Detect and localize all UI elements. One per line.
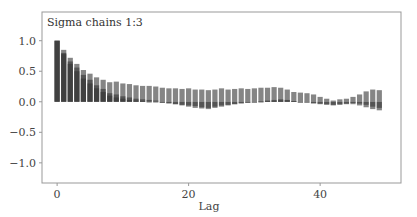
acf-bar xyxy=(252,88,257,101)
acf-bar xyxy=(199,102,204,108)
acf-bar xyxy=(114,98,119,102)
acf-bar xyxy=(304,102,309,103)
acf-bar xyxy=(193,102,198,106)
acf-bar xyxy=(166,102,171,104)
x-tick-label: 40 xyxy=(313,188,327,201)
acf-bar xyxy=(153,87,158,102)
acf-bar xyxy=(318,97,323,102)
acf-bar xyxy=(94,88,99,101)
acf-bar xyxy=(252,102,257,103)
acf-bar xyxy=(87,83,92,101)
acf-bar xyxy=(120,99,125,102)
y-tick-label: 1.0 xyxy=(19,35,37,48)
acf-bar xyxy=(61,54,66,102)
acf-bar xyxy=(133,101,138,102)
acf-bar xyxy=(212,102,217,107)
acf-bar xyxy=(239,102,244,103)
acf-bar xyxy=(370,90,375,102)
acf-bar xyxy=(291,101,296,102)
x-tick-label: 0 xyxy=(54,188,61,201)
acf-bar xyxy=(160,102,165,103)
acf-bar xyxy=(127,100,132,102)
acf-bar xyxy=(311,94,316,101)
acf-bar xyxy=(160,88,165,102)
acf-bar xyxy=(258,102,263,103)
acf-bar xyxy=(147,86,152,102)
acf-bar xyxy=(324,99,329,102)
acf-bar xyxy=(225,90,230,102)
acf-bar xyxy=(344,102,349,104)
acf-bar xyxy=(298,93,303,102)
acf-bar xyxy=(232,89,237,102)
acf-bar xyxy=(337,102,342,104)
acf-bar xyxy=(225,102,230,105)
acf-bar xyxy=(245,102,250,103)
y-tick-label: −1.0 xyxy=(9,157,36,170)
acf-bar xyxy=(318,102,323,104)
acf-bar xyxy=(147,100,152,102)
acf-bar xyxy=(324,102,329,104)
acf-chart: 1.00.50.0−0.5−1.0 02040 Sigma chains 1:3… xyxy=(0,0,417,217)
acf-bar xyxy=(291,92,296,102)
acf-bar xyxy=(212,90,217,102)
acf-bar xyxy=(272,101,277,102)
acf-bar xyxy=(219,88,224,101)
acf-bar xyxy=(153,102,158,103)
acf-bar xyxy=(68,64,73,102)
acf-bar xyxy=(298,102,303,103)
acf-bar xyxy=(258,88,263,102)
acf-bar xyxy=(364,102,369,105)
acf-bar xyxy=(179,102,184,105)
acf-bar xyxy=(344,99,349,102)
y-axis: 1.00.50.0−0.5−1.0 xyxy=(9,35,42,170)
acf-bar xyxy=(74,71,79,102)
acf-bar xyxy=(186,88,191,101)
y-tick-label: 0.5 xyxy=(19,65,37,78)
acf-bar xyxy=(173,102,178,104)
acf-bar xyxy=(285,101,290,102)
y-tick-label: 0.0 xyxy=(19,96,37,109)
y-tick-label: −0.5 xyxy=(9,126,36,139)
acf-bar xyxy=(331,102,336,105)
acf-bar xyxy=(278,101,283,102)
acf-bar xyxy=(179,89,184,102)
acf-bar xyxy=(219,102,224,106)
acf-bar xyxy=(285,90,290,102)
acf-bar xyxy=(81,79,86,102)
acf-bar xyxy=(350,102,355,103)
acf-bar xyxy=(370,102,375,107)
x-tick-label: 20 xyxy=(182,188,196,201)
acf-bar xyxy=(265,101,270,102)
acf-bar xyxy=(377,102,382,108)
acf-bar xyxy=(357,94,362,101)
x-axis-label: Lag xyxy=(199,200,220,213)
acf-bar xyxy=(265,88,270,102)
acf-bar xyxy=(311,102,316,103)
acf-bar xyxy=(350,97,355,102)
acf-bar xyxy=(193,90,198,102)
acf-bar xyxy=(153,101,158,102)
acf-bar xyxy=(357,102,362,104)
acf-bar xyxy=(272,87,277,102)
acf-bar xyxy=(55,41,60,102)
acf-bar xyxy=(245,89,250,102)
acf-bar xyxy=(304,93,309,102)
acf-bar xyxy=(239,88,244,101)
acf-bar xyxy=(232,102,237,104)
chart-title: Sigma chains 1:3 xyxy=(47,16,143,29)
acf-bar xyxy=(337,99,342,101)
acf-bar xyxy=(147,102,152,103)
x-axis: 02040 xyxy=(54,183,328,201)
acf-bar xyxy=(331,101,336,102)
acf-bar xyxy=(101,92,106,102)
acf-bar xyxy=(199,90,204,102)
acf-bar xyxy=(173,88,178,101)
acf-bar xyxy=(140,101,145,102)
acf-bar xyxy=(206,102,211,108)
acf-bar xyxy=(186,102,191,106)
acf-bar xyxy=(107,96,112,102)
acf-bar xyxy=(206,90,211,102)
acf-bar xyxy=(166,88,171,101)
acf-bar xyxy=(364,91,369,101)
acf-bar xyxy=(377,90,382,102)
